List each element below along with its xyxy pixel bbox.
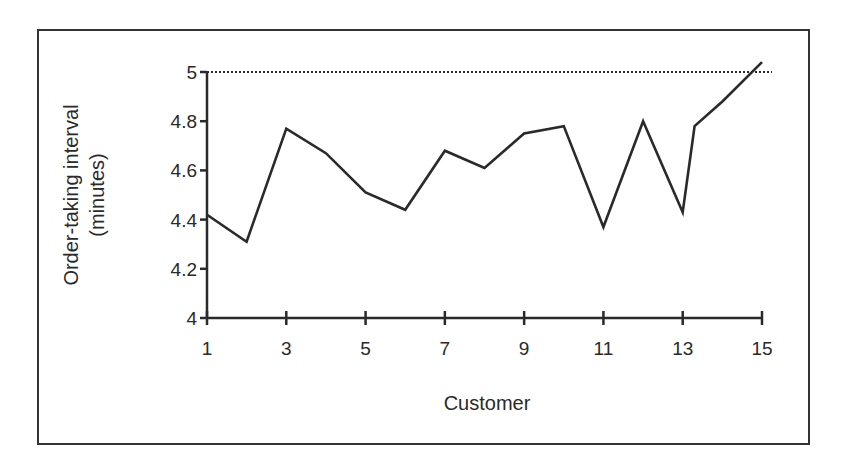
y-tick-label: 4.2: [171, 259, 197, 280]
y-tick-label: 4.6: [171, 160, 197, 181]
x-tick-label: 5: [360, 338, 371, 359]
y-axis-title-line1: Order-taking interval: [60, 104, 82, 285]
y-tick-label: 4: [186, 308, 197, 329]
x-axis-title: Customer: [444, 392, 531, 414]
x-tick-label: 9: [519, 338, 530, 359]
y-tick-label: 4.4: [171, 210, 198, 231]
series-line: [207, 62, 762, 242]
axes: [207, 72, 762, 318]
y-tick-label: 5: [186, 62, 197, 83]
data-series: [207, 62, 762, 242]
x-tick-label: 15: [751, 338, 772, 359]
line-chart: 44.24.44.64.85 13579111315 Customer Orde…: [0, 0, 842, 467]
y-tick-label: 4.8: [171, 111, 197, 132]
x-tick-label: 1: [202, 338, 213, 359]
x-tick-label: 7: [440, 338, 451, 359]
y-axis-title-line2: (minutes): [86, 153, 108, 236]
x-tick-label: 3: [281, 338, 292, 359]
x-tick-label: 11: [594, 338, 614, 359]
y-axis-ticks: 44.24.44.64.85: [171, 62, 207, 329]
x-tick-label: 13: [672, 338, 693, 359]
